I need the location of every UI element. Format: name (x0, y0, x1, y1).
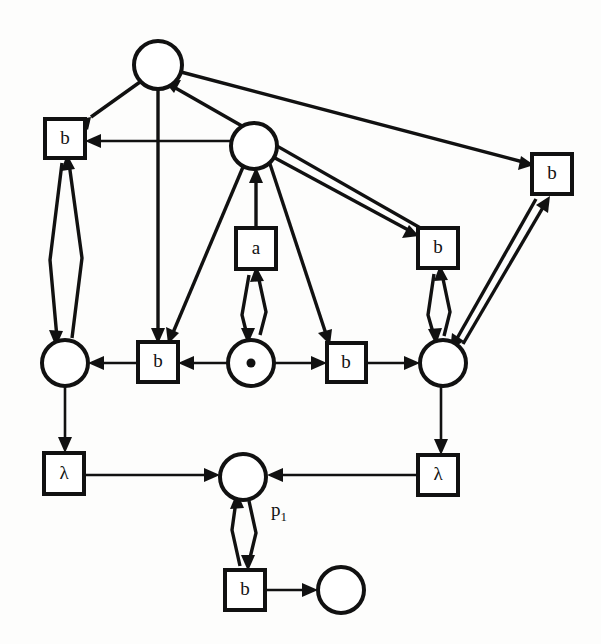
place-p1-label-subscript: 1 (281, 509, 288, 524)
token-dot (247, 359, 256, 368)
transition-b-bottom-label: b (240, 578, 250, 599)
place-p1[interactable] (220, 454, 266, 500)
place-right[interactable] (420, 340, 466, 386)
transition-lambda-left[interactable]: λ (44, 453, 84, 494)
arc-right-place-to-lambda-right (434, 386, 448, 455)
place-p1-label: p1 (271, 499, 287, 524)
arc-top-place-to-b-mid-left (151, 89, 165, 344)
arc-mid-place-to-b-mid-right (270, 164, 332, 345)
transition-b-left-top[interactable]: b (45, 119, 85, 158)
arc-left-place-to-lambda-left (58, 386, 72, 453)
place-left[interactable] (42, 340, 88, 386)
transition-b-mid-right[interactable]: b (327, 343, 366, 382)
transition-b-left-top-label: b (60, 127, 70, 148)
transition-b-bottom[interactable]: b (225, 570, 265, 610)
arc-a-to-mid-place (249, 167, 263, 228)
place-mid-upper[interactable] (231, 123, 277, 169)
transition-a[interactable]: a (236, 228, 276, 269)
place-bottom-right[interactable] (318, 567, 364, 613)
transition-a-label: a (252, 237, 261, 258)
transition-lambda-left-label: λ (59, 462, 69, 483)
arc-b-right-upper-to-right-place-bidirectional (428, 265, 450, 345)
transition-b-far-right[interactable]: b (532, 154, 572, 194)
arc-b-bottom-to-bottom-right-place (265, 583, 318, 597)
arc-lambda-left-to-p1 (84, 468, 220, 482)
arc-mid-place-to-b-right-upper (275, 158, 419, 238)
transitions-layer: b b a b b b (44, 119, 572, 610)
arc-b-left-to-left-place-bidirectional (49, 154, 82, 347)
arc-b-mid-right-to-right-place (366, 356, 420, 370)
transition-b-right-upper-label: b (433, 236, 443, 257)
arc-token-place-to-b-mid-left (178, 356, 228, 370)
transition-lambda-right-label: λ (433, 463, 443, 484)
transition-b-right-upper[interactable]: b (418, 228, 458, 268)
arc-b-far-right-to-right-place-bidirectional (450, 196, 550, 350)
transition-b-mid-left[interactable]: b (138, 342, 178, 382)
petri-net-canvas: b b a b b b (0, 0, 601, 644)
transition-b-far-right-label: b (547, 162, 557, 183)
arc-b-mid-left-to-left-place (88, 356, 137, 370)
arc-token-place-to-b-mid-right (274, 356, 327, 370)
petri-net-diagram: b b a b b b (0, 0, 601, 644)
arcs-layer (49, 72, 550, 597)
transition-b-mid-left-label: b (153, 350, 163, 371)
place-top[interactable] (134, 41, 182, 89)
transition-b-mid-right-label: b (341, 351, 351, 372)
transition-lambda-right[interactable]: λ (418, 455, 458, 495)
arc-lambda-right-to-p1 (267, 468, 418, 482)
place-p1-label-base: p (271, 499, 281, 520)
arc-p1-to-b-bottom-bidirectional (230, 492, 256, 571)
arc-mid-place-to-b-mid-left (166, 167, 243, 344)
labels-layer: p1 (271, 499, 287, 524)
arc-a-to-token-place-bidirectional (241, 266, 266, 344)
